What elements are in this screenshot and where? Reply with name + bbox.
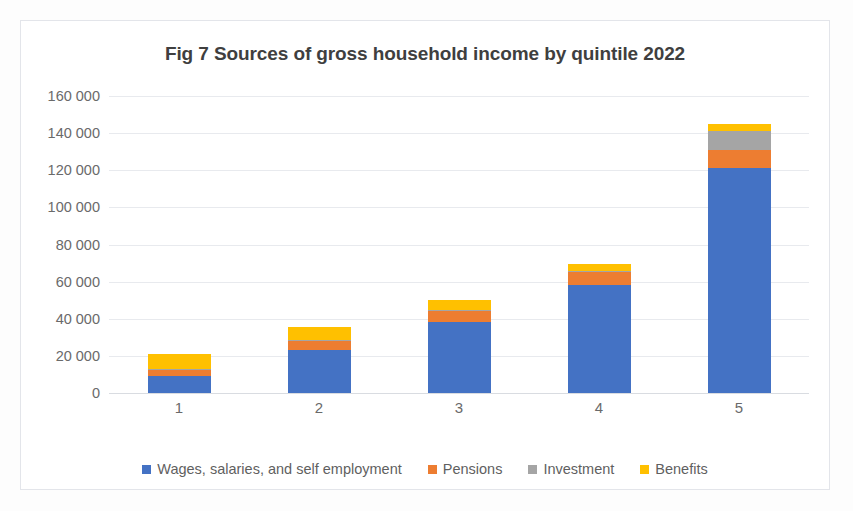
- legend-swatch-icon: [640, 465, 649, 474]
- x-axis-tick-label: 4: [568, 399, 631, 416]
- y-axis-tick-label: 100 000: [48, 199, 100, 215]
- bar-segment[interactable]: [288, 341, 351, 350]
- bar-group-quintile-3[interactable]: [428, 96, 491, 393]
- legend-label: Investment: [543, 461, 614, 477]
- x-axis-tick-label: 3: [428, 399, 491, 416]
- y-axis-tick-label: 0: [92, 385, 100, 401]
- chart-frame: Fig 7 Sources of gross household income …: [20, 20, 830, 490]
- legend-item[interactable]: Wages, salaries, and self employment: [142, 461, 401, 477]
- bar-segment[interactable]: [428, 300, 491, 310]
- y-axis-tick-label: 40 000: [56, 311, 100, 327]
- y-axis-tick-label: 60 000: [56, 274, 100, 290]
- x-axis-tick-label: 5: [708, 399, 771, 416]
- x-axis-tick-label: 1: [148, 399, 211, 416]
- bar-segment[interactable]: [428, 311, 491, 322]
- plot-area: 020 00040 00060 00080 000100 000120 0001…: [109, 96, 809, 393]
- legend-item[interactable]: Investment: [528, 461, 614, 477]
- y-axis-tick-label: 140 000: [48, 125, 100, 141]
- bar-group-quintile-2[interactable]: [288, 96, 351, 393]
- chart-legend: Wages, salaries, and self employmentPens…: [21, 461, 829, 477]
- bar-segment[interactable]: [428, 322, 491, 393]
- bar-segment[interactable]: [288, 350, 351, 393]
- bar-segment[interactable]: [708, 168, 771, 393]
- bar-segment[interactable]: [708, 150, 771, 169]
- legend-item[interactable]: Pensions: [428, 461, 503, 477]
- bar-segment[interactable]: [708, 124, 771, 131]
- y-axis-tick-label: 20 000: [56, 348, 100, 364]
- bar-segment[interactable]: [708, 131, 771, 150]
- y-axis-tick-label: 120 000: [48, 162, 100, 178]
- legend-item[interactable]: Benefits: [640, 461, 707, 477]
- bar-segment[interactable]: [148, 354, 211, 369]
- legend-swatch-icon: [428, 465, 437, 474]
- legend-swatch-icon: [528, 465, 537, 474]
- x-axis-line: [109, 393, 809, 394]
- bar-segment[interactable]: [568, 272, 631, 285]
- bar-segment[interactable]: [288, 327, 351, 340]
- legend-label: Benefits: [655, 461, 707, 477]
- bar-series-container: [109, 96, 809, 393]
- bar-group-quintile-1[interactable]: [148, 96, 211, 393]
- bar-segment[interactable]: [148, 376, 211, 393]
- x-axis-tick-label: 2: [288, 399, 351, 416]
- chart-title: Fig 7 Sources of gross household income …: [21, 43, 829, 65]
- y-axis-tick-label: 80 000: [56, 237, 100, 253]
- legend-label: Pensions: [443, 461, 503, 477]
- scanned-page: Fig 7 Sources of gross household income …: [0, 0, 853, 511]
- x-axis-tick-labels: 12345: [109, 399, 809, 416]
- legend-swatch-icon: [142, 465, 151, 474]
- legend-label: Wages, salaries, and self employment: [157, 461, 401, 477]
- bar-group-quintile-5[interactable]: [708, 96, 771, 393]
- bar-group-quintile-4[interactable]: [568, 96, 631, 393]
- bar-segment[interactable]: [568, 285, 631, 393]
- y-axis-tick-label: 160 000: [48, 88, 100, 104]
